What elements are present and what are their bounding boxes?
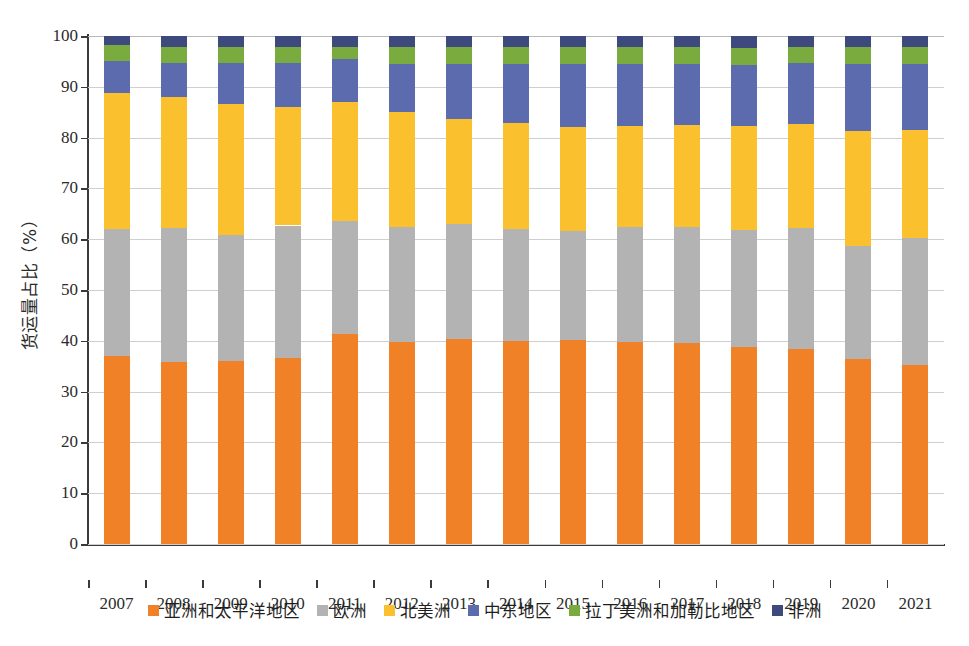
bar-segment-亚洲和太平洋地区[interactable] [788, 349, 814, 544]
bar-segment-非洲[interactable] [788, 36, 814, 47]
bar-segment-北美洲[interactable] [617, 126, 643, 226]
bar-segment-亚洲和太平洋地区[interactable] [332, 334, 358, 544]
bar-segment-亚洲和太平洋地区[interactable] [560, 340, 586, 544]
bar-segment-中东地区[interactable] [389, 64, 415, 112]
bar-segment-北美洲[interactable] [845, 131, 871, 246]
bar-2014[interactable] [503, 36, 529, 544]
bar-segment-非洲[interactable] [332, 36, 358, 47]
bar-segment-亚洲和太平洋地区[interactable] [275, 358, 301, 544]
bar-segment-北美洲[interactable] [674, 125, 700, 227]
bar-segment-中东地区[interactable] [845, 64, 871, 131]
bar-segment-拉丁美洲和加勒比地区[interactable] [788, 47, 814, 63]
bar-segment-拉丁美洲和加勒比地区[interactable] [389, 47, 415, 64]
bar-segment-北美洲[interactable] [731, 126, 757, 230]
bar-segment-亚洲和太平洋地区[interactable] [845, 359, 871, 544]
bar-segment-非洲[interactable] [389, 36, 415, 47]
bar-segment-中东地区[interactable] [104, 61, 130, 92]
bar-segment-北美洲[interactable] [275, 107, 301, 226]
bar-segment-拉丁美洲和加勒比地区[interactable] [731, 48, 757, 65]
bar-2009[interactable] [218, 36, 244, 544]
bar-segment-北美洲[interactable] [389, 112, 415, 226]
bar-2018[interactable] [731, 36, 757, 544]
bar-segment-欧洲[interactable] [218, 235, 244, 360]
bar-segment-欧洲[interactable] [503, 229, 529, 341]
bar-2007[interactable] [104, 36, 130, 544]
bar-segment-中东地区[interactable] [731, 65, 757, 126]
bar-segment-非洲[interactable] [503, 36, 529, 47]
bar-segment-亚洲和太平洋地区[interactable] [617, 342, 643, 544]
bar-segment-欧洲[interactable] [332, 221, 358, 334]
bar-segment-北美洲[interactable] [446, 119, 472, 225]
bar-segment-亚洲和太平洋地区[interactable] [161, 362, 187, 544]
bar-segment-拉丁美洲和加勒比地区[interactable] [332, 47, 358, 59]
bar-segment-中东地区[interactable] [788, 63, 814, 124]
bar-segment-拉丁美洲和加勒比地区[interactable] [617, 47, 643, 64]
bar-2020[interactable] [845, 36, 871, 544]
bar-segment-欧洲[interactable] [902, 238, 928, 365]
legend-item-2[interactable]: 北美洲 [384, 598, 451, 622]
bar-segment-欧洲[interactable] [674, 227, 700, 343]
bar-segment-北美洲[interactable] [560, 127, 586, 230]
bar-segment-中东地区[interactable] [617, 64, 643, 126]
bar-segment-北美洲[interactable] [218, 104, 244, 235]
bar-segment-北美洲[interactable] [104, 93, 130, 229]
bar-segment-非洲[interactable] [845, 36, 871, 47]
bar-segment-欧洲[interactable] [161, 228, 187, 362]
bar-segment-拉丁美洲和加勒比地区[interactable] [902, 47, 928, 64]
bar-segment-拉丁美洲和加勒比地区[interactable] [275, 47, 301, 64]
bar-segment-欧洲[interactable] [788, 228, 814, 349]
bar-segment-欧洲[interactable] [731, 230, 757, 347]
bar-segment-拉丁美洲和加勒比地区[interactable] [218, 47, 244, 63]
bar-2013[interactable] [446, 36, 472, 544]
bar-2010[interactable] [275, 36, 301, 544]
bar-2015[interactable] [560, 36, 586, 544]
legend-item-3[interactable]: 中东地区 [468, 598, 552, 622]
bar-segment-北美洲[interactable] [332, 102, 358, 221]
bar-segment-拉丁美洲和加勒比地区[interactable] [104, 45, 130, 62]
bar-segment-亚洲和太平洋地区[interactable] [503, 341, 529, 544]
bar-segment-亚洲和太平洋地区[interactable] [389, 342, 415, 544]
bar-segment-拉丁美洲和加勒比地区[interactable] [674, 47, 700, 64]
bar-segment-北美洲[interactable] [161, 97, 187, 228]
bar-segment-拉丁美洲和加勒比地区[interactable] [446, 47, 472, 64]
bar-segment-北美洲[interactable] [902, 130, 928, 238]
bar-segment-北美洲[interactable] [788, 124, 814, 228]
bar-segment-欧洲[interactable] [560, 231, 586, 340]
legend-item-5[interactable]: 非洲 [772, 598, 822, 622]
bar-segment-欧洲[interactable] [617, 227, 643, 342]
bar-segment-中东地区[interactable] [218, 63, 244, 104]
bar-2008[interactable] [161, 36, 187, 544]
bar-segment-亚洲和太平洋地区[interactable] [674, 343, 700, 544]
bar-segment-非洲[interactable] [446, 36, 472, 47]
bar-segment-亚洲和太平洋地区[interactable] [446, 339, 472, 544]
bar-segment-中东地区[interactable] [332, 59, 358, 102]
bar-segment-欧洲[interactable] [389, 227, 415, 342]
bar-segment-非洲[interactable] [560, 36, 586, 47]
bar-segment-非洲[interactable] [218, 36, 244, 47]
bar-2019[interactable] [788, 36, 814, 544]
bar-segment-非洲[interactable] [104, 36, 130, 45]
bar-2017[interactable] [674, 36, 700, 544]
bar-segment-中东地区[interactable] [902, 64, 928, 130]
bar-segment-欧洲[interactable] [446, 224, 472, 338]
bar-segment-中东地区[interactable] [560, 64, 586, 128]
bar-2021[interactable] [902, 36, 928, 544]
bar-segment-亚洲和太平洋地区[interactable] [902, 365, 928, 544]
bar-segment-欧洲[interactable] [104, 229, 130, 357]
bar-segment-中东地区[interactable] [674, 64, 700, 125]
bar-segment-中东地区[interactable] [275, 63, 301, 106]
bar-segment-中东地区[interactable] [161, 63, 187, 97]
bar-2016[interactable] [617, 36, 643, 544]
bar-segment-亚洲和太平洋地区[interactable] [731, 347, 757, 544]
bar-segment-欧洲[interactable] [275, 226, 301, 359]
legend-item-4[interactable]: 拉丁美洲和加勒比地区 [569, 598, 755, 622]
bar-segment-非洲[interactable] [161, 36, 187, 47]
legend-item-0[interactable]: 亚洲和太平洋地区 [148, 598, 300, 622]
bar-segment-非洲[interactable] [674, 36, 700, 47]
bar-segment-非洲[interactable] [617, 36, 643, 47]
bar-segment-北美洲[interactable] [503, 123, 529, 229]
bar-segment-拉丁美洲和加勒比地区[interactable] [560, 47, 586, 64]
bar-segment-欧洲[interactable] [845, 246, 871, 359]
bar-2011[interactable] [332, 36, 358, 544]
bar-segment-亚洲和太平洋地区[interactable] [104, 356, 130, 544]
